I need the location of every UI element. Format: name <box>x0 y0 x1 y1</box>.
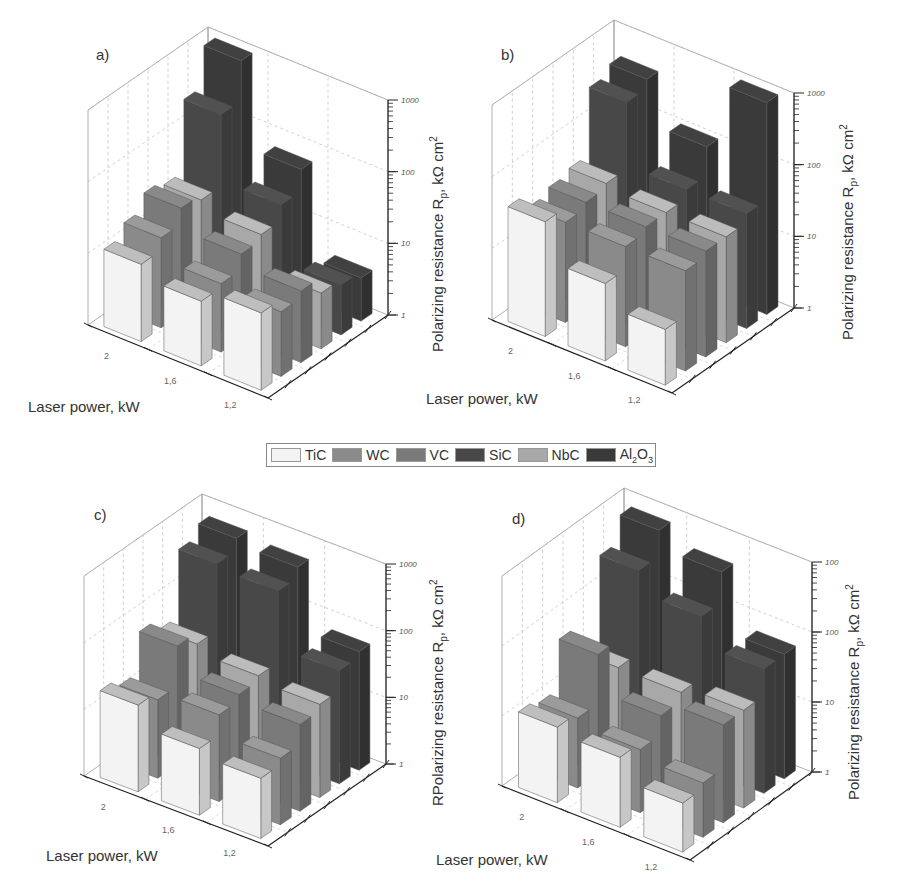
x-axis-label-c: Laser power, kW <box>46 847 158 864</box>
z-tick-label: 10 <box>399 693 408 702</box>
x-tick-label: 2 <box>104 351 109 361</box>
x-axis-label-a: Laser power, kW <box>28 398 140 415</box>
legend-label-vc: VC <box>430 447 449 463</box>
x-tick-label: 2 <box>101 802 106 812</box>
y-axis-label-c: RPolarizing resistance Rp, kΩ cm2 <box>428 579 449 806</box>
legend-label-sic: SiC <box>489 447 512 463</box>
z-tick-label: 100 <box>825 628 839 637</box>
bar-tic-1,6 <box>568 261 616 361</box>
chart-svg-a: 21,61,21101001000 <box>0 0 456 430</box>
bar-tic-1,2 <box>223 756 272 838</box>
bars <box>508 56 778 385</box>
x-tick-label: 1,6 <box>162 825 175 835</box>
legend-label-wc: WC <box>366 447 389 463</box>
x-axis-label-b: Laser power, kW <box>426 390 538 407</box>
z-tick-label: 1000 <box>401 96 419 105</box>
x-tick-label: 1,2 <box>645 862 658 872</box>
z-tick-label: 1000 <box>807 89 825 98</box>
y-axis-label-a: Polarizing resistance Rp, kΩ cm2 <box>428 136 449 352</box>
legend-item-wc: WC <box>332 447 391 463</box>
y-axis-label-b: Polarizing resistance Rp, kΩ cm2 <box>838 124 859 340</box>
bar-tic-2 <box>100 683 149 792</box>
x-tick-label: 1,6 <box>164 376 177 386</box>
x-tick-label: 1,6 <box>568 371 581 381</box>
x-axis-label-d: Laser power, kW <box>436 851 548 868</box>
bar-tic-1,2 <box>224 290 272 390</box>
legend-item-tic: TiC <box>271 447 328 463</box>
z-tick-label: 100 <box>399 627 413 636</box>
bar-tic-2 <box>519 704 569 803</box>
bars <box>104 38 372 390</box>
z-tick-label: 1 <box>825 768 829 777</box>
legend-item-vc: VC <box>396 447 451 463</box>
chart-panel-a: a) 21,61,21101001000 Laser power, kW Pol… <box>0 0 456 430</box>
z-tick-label: 10 <box>807 232 816 241</box>
legend-swatch-sic <box>455 448 485 462</box>
x-tick-label: 1,2 <box>223 848 236 858</box>
z-tick-label: 1 <box>807 304 811 313</box>
x-tick-label: 1,2 <box>224 400 237 410</box>
z-tick-label: 1 <box>399 760 403 769</box>
legend-label-tic: TiC <box>305 447 326 463</box>
chart-panel-c: c) 21,61,21101001000 Laser power, kW RPo… <box>0 476 456 896</box>
chart-legend: TiC WC VC SiC NbC Al2O3 <box>266 443 656 467</box>
legend-item-nbc: NbC <box>518 447 582 463</box>
bars <box>100 516 370 838</box>
chart-panel-d: d) 21,61,2110100100 Laser power, kW Pola… <box>456 476 913 896</box>
z-tick-label: 100 <box>401 168 415 177</box>
legend-swatch-tic <box>271 448 301 462</box>
legend-swatch-nbc <box>518 448 548 462</box>
legend-label-nbc: NbC <box>552 447 580 463</box>
x-tick-label: 1,2 <box>628 395 641 405</box>
z-tick-label: 10 <box>401 239 410 248</box>
bar-tic-1,6 <box>581 734 631 827</box>
chart-panel-b: b) 21,61,21101001000 Laser power, kW Pol… <box>456 0 913 430</box>
legend-item-sic: SiC <box>455 447 514 463</box>
x-tick-label: 2 <box>508 346 513 356</box>
z-tick-label: 1000 <box>399 560 417 569</box>
z-tick-label: 1 <box>401 311 405 320</box>
legend-label-al2o3: Al2O3 <box>620 446 653 465</box>
legend-swatch-vc <box>396 448 426 462</box>
bar-tic-2 <box>508 199 556 337</box>
x-tick-label: 2 <box>519 812 524 822</box>
bar-tic-1,6 <box>161 727 210 816</box>
bar-tic-2 <box>104 242 152 342</box>
legend-swatch-al2o3 <box>586 448 616 462</box>
y-axis-label-d: Polarizing resistance Rp, kΩ cm2 <box>844 584 865 800</box>
bar-tic-1,6 <box>164 279 212 366</box>
legend-swatch-wc <box>332 448 362 462</box>
x-tick-label: 1,6 <box>582 837 595 847</box>
z-tick-label: 100 <box>825 558 839 567</box>
bars <box>519 507 796 852</box>
z-tick-label: 100 <box>807 161 821 170</box>
legend-item-al2o3: Al2O3 <box>586 446 655 465</box>
z-tick-label: 10 <box>825 698 834 707</box>
chart-svg-c: 21,61,21101001000 <box>0 476 456 896</box>
